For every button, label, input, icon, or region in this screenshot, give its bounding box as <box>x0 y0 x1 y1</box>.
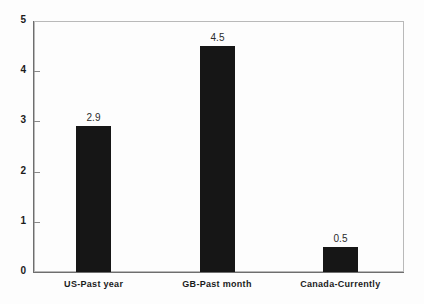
y-axis-tick-label: 5 <box>20 14 26 25</box>
x-axis-category-label: GB-Past month <box>157 279 277 290</box>
y-axis-tick-mark <box>34 222 40 223</box>
y-axis-tick-label: 2 <box>20 165 26 176</box>
x-axis-category-label: Canada-Currently <box>280 279 400 290</box>
y-axis-tick-label: 4 <box>20 64 26 75</box>
bar-value-label: 4.5 <box>180 32 255 43</box>
y-axis-tick-label: 1 <box>20 215 26 226</box>
y-axis-tick-label: 3 <box>20 114 26 125</box>
bar[interactable] <box>323 247 358 272</box>
bar-chart: 012345 2.94.50.5 US-Past yearGB-Past mon… <box>0 0 424 304</box>
y-axis-tick-mark <box>34 71 40 72</box>
y-axis-tick-label: 0 <box>20 265 26 276</box>
x-axis-category-label: US-Past year <box>34 279 154 290</box>
y-axis-tick-mark <box>34 172 40 173</box>
bar[interactable] <box>200 46 235 272</box>
x-axis-line <box>33 272 404 273</box>
bar[interactable] <box>76 126 111 272</box>
y-axis-line <box>33 21 34 273</box>
y-axis-tick-mark <box>34 121 40 122</box>
bar-value-label: 0.5 <box>303 233 378 244</box>
bar-value-label: 2.9 <box>56 112 131 123</box>
